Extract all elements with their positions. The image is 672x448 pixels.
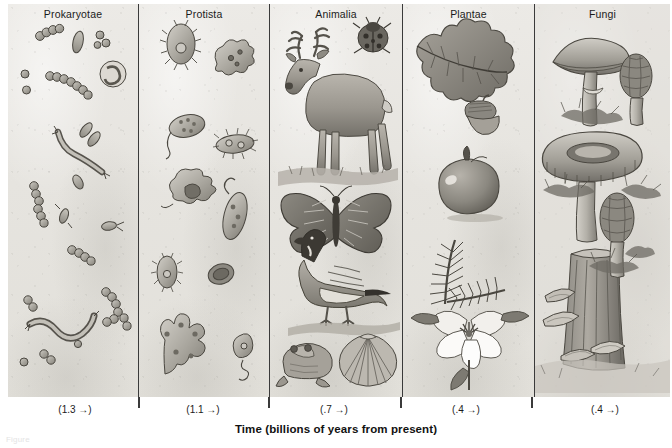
time-label-plantae: (.4 →)	[452, 404, 480, 415]
axis-title: Time (billions of years from present)	[0, 423, 672, 435]
fungi-illustration	[535, 4, 670, 397]
kingdom-panels: Prokaryotae	[8, 4, 666, 397]
figure-caption: Figure	[6, 435, 30, 444]
animalia-illustration	[270, 4, 402, 397]
panel-title-prokaryotae: Prokaryotae	[8, 8, 138, 20]
panel-title-fungi: Fungi	[535, 8, 670, 20]
axis-tick	[138, 397, 140, 408]
axis-tick	[268, 397, 270, 408]
panel-title-plantae: Plantae	[403, 8, 534, 20]
prokaryotae-illustration	[8, 4, 138, 397]
panel-title-animalia: Animalia	[270, 8, 402, 20]
kingdom-panel-protista: Protista	[139, 4, 270, 397]
time-label-prokaryotae: (1.3 →)	[58, 404, 91, 415]
panel-title-protista: Protista	[139, 8, 269, 20]
kingdom-panel-animalia: Animalia	[270, 4, 403, 397]
plantae-illustration	[403, 4, 534, 397]
protista-illustration	[139, 4, 269, 397]
five-kingdoms-figure: Prokaryotae	[0, 0, 672, 448]
axis-tick	[531, 397, 533, 408]
kingdom-panel-plantae: Plantae	[403, 4, 535, 397]
time-label-protista: (1.1 →)	[186, 404, 219, 415]
time-label-fungi: (.4 →)	[591, 404, 619, 415]
time-label-animalia: (.7 →)	[320, 404, 348, 415]
axis-tick	[400, 397, 402, 408]
kingdom-panel-fungi: Fungi	[535, 4, 670, 397]
kingdom-panel-prokaryotae: Prokaryotae	[8, 4, 139, 397]
